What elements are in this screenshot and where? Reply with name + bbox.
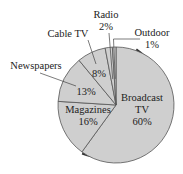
slice-label-cable-tv: Cable TV (48, 28, 89, 39)
pie-chart-svg: Broadcast TV 60% Magazines 16% Newspaper… (0, 0, 183, 174)
pie-chart: Broadcast TV 60% Magazines 16% Newspaper… (0, 0, 183, 174)
slice-label-newspapers: Newspapers (10, 60, 61, 71)
slice-value-broadcast-tv: 60% (132, 116, 152, 127)
slice-value-newspapers: 13% (76, 86, 96, 97)
slice-label-broadcast-tv-line2: TV (135, 104, 149, 115)
slice-value-outdoor: 1% (145, 39, 159, 50)
slice-value-radio: 2% (99, 21, 113, 32)
slice-label-outdoor: Outdoor (135, 27, 171, 38)
slice-label-magazines: Magazines (65, 104, 110, 115)
slice-label-broadcast-tv-line1: Broadcast (121, 92, 163, 103)
slice-value-cable-tv: 8% (92, 68, 106, 79)
slice-label-radio: Radio (93, 9, 118, 20)
slice-value-magazines: 16% (78, 116, 98, 127)
